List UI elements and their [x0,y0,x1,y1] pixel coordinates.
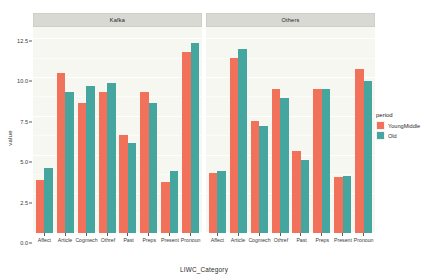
legend-color-swatch [377,132,384,139]
x-tick-label: Pronoun [180,237,201,243]
bar [301,160,310,233]
bar-group [97,27,118,233]
x-tick-mark [34,233,55,236]
legend-key [376,131,385,140]
x-tick-label: Othref [98,237,119,243]
facet-strip-label: Kafka [33,13,202,27]
bar [107,83,116,233]
legend-label: YoungMiddle [388,123,420,129]
bar [161,182,170,233]
bar [355,69,364,233]
plot-area [206,27,375,233]
bar [238,49,247,233]
facet-strip-label: Others [206,13,375,27]
legend-title: period [376,112,434,118]
bar [36,180,45,233]
x-tick-label: Present [160,237,181,243]
x-tick-mark [97,233,118,236]
x-axis-ticks [33,233,202,236]
bar [364,81,373,233]
bar-group [353,27,374,233]
x-tick-label: Article [228,237,249,243]
x-tick-mark [159,233,180,236]
x-axis-tick-labels: AffectArticleCogmechOthrefPastPrepsPrese… [33,237,202,243]
facet-panel-others: OthersAffectArticleCogmechOthrefPastPrep… [206,13,375,243]
bar-group [249,27,270,233]
x-tick-label: Othref [271,237,292,243]
legend-items: YoungMiddleOld [376,121,434,140]
y-tick-label: 0.0 [20,240,28,246]
x-tick-mark [76,233,97,236]
x-tick-mark [207,233,228,236]
x-tick-mark [118,233,139,236]
bar [182,52,191,233]
legend-key [376,121,385,130]
bar [65,92,74,233]
bar [209,173,218,233]
bar-group [311,27,332,233]
x-tick-mark [332,233,353,236]
bars-layer [33,27,202,233]
bar [343,176,352,233]
x-tick-label: Affect [34,237,55,243]
bar [99,92,108,233]
y-tick-label: 12.5 [17,38,28,44]
facet-panels: KafkaAffectArticleCogmechOthrefPastPreps… [33,13,375,243]
bar [230,58,239,233]
y-tick-label: 5.0 [20,159,28,165]
x-tick-label: Pronoun [353,237,374,243]
bar [119,135,128,233]
bar [149,103,158,233]
x-axis-ticks [206,233,375,236]
x-axis-tick-labels: AffectArticleCogmechOthrefPastPrepsPrese… [206,237,375,243]
x-tick-mark [249,233,270,236]
bar-group [207,27,228,233]
bar-group [55,27,76,233]
bar [322,89,331,233]
bar [44,168,53,233]
bar-group [228,27,249,233]
plot-area [33,27,202,233]
bar [280,98,289,233]
x-tick-mark [228,233,249,236]
bar-group [291,27,312,233]
y-tick-label: 7.5 [20,119,28,125]
facet-panel-kafka: KafkaAffectArticleCogmechOthrefPastPreps… [33,13,202,243]
x-tick-label: Cogmech [248,237,270,243]
x-tick-label: Past [291,237,312,243]
bar [57,73,66,233]
bar-group [34,27,55,233]
x-tick-mark [311,233,332,236]
x-tick-label: Past [118,237,139,243]
legend: period YoungMiddleOld [376,112,434,141]
bar-group [159,27,180,233]
bar [128,143,137,233]
bar-group [138,27,159,233]
x-tick-label: Cogmech [75,237,97,243]
bar [191,43,200,234]
x-tick-mark [291,233,312,236]
y-tick-label: 2.5 [20,200,28,206]
x-tick-label: Present [333,237,354,243]
bar [251,121,260,233]
bar [86,86,95,233]
bar-group [76,27,97,233]
legend-item[interactable]: YoungMiddle [376,121,434,130]
y-tick-label: 10.0 [17,78,28,84]
bar-group [118,27,139,233]
x-tick-mark [180,233,201,236]
y-axis-tick-labels: 0.02.55.07.510.012.5 [8,28,32,243]
bar [170,171,179,233]
legend-color-swatch [377,122,384,129]
x-tick-mark [55,233,76,236]
bar [272,89,281,233]
bar [78,103,87,233]
x-tick-label: Affect [207,237,228,243]
bar [140,92,149,233]
x-tick-mark [138,233,159,236]
legend-item[interactable]: Old [376,131,434,140]
bar [334,177,343,233]
bar [313,89,322,233]
x-axis-title: LIWC_Category [33,266,375,273]
bar [259,126,268,233]
